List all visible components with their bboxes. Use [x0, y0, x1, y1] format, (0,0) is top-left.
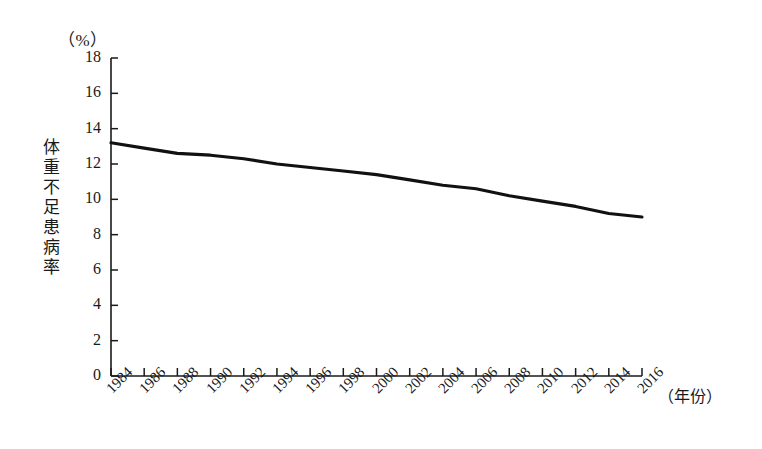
x-axis-ticks	[111, 368, 642, 376]
chart-container: （%） 体 重 不 足 患 病 率 （年份） 024681012141618 1…	[0, 0, 762, 449]
y-axis-ticks	[111, 58, 118, 376]
plot-area	[0, 0, 762, 449]
data-series-line	[111, 143, 642, 217]
axis-lines	[111, 58, 642, 376]
